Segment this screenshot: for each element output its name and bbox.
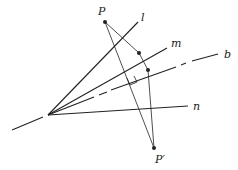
point-p-prime xyxy=(152,146,156,150)
point-foot-b xyxy=(146,68,150,72)
point-foot-m xyxy=(137,51,141,55)
line-l xyxy=(48,22,138,115)
label-b: b xyxy=(224,48,231,61)
reflection-diagram: P P′ l m b n xyxy=(0,0,238,170)
segment-foot-m-foot-b xyxy=(139,53,148,70)
point-p xyxy=(103,20,107,24)
line-b xyxy=(12,54,218,130)
label-p: P xyxy=(97,5,106,18)
segment-p-pprime xyxy=(105,22,154,148)
label-p-prime: P′ xyxy=(154,153,165,166)
label-m: m xyxy=(171,37,181,50)
label-n: n xyxy=(193,100,200,113)
label-l: l xyxy=(141,11,145,24)
